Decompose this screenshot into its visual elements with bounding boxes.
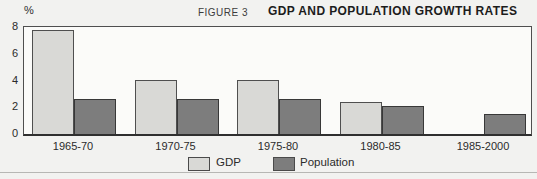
y-tick-label-4: 4: [0, 74, 18, 86]
bar-gdp-1970-75: [135, 80, 177, 134]
figure-number-label: FIGURE 3: [198, 7, 248, 18]
bar-population-1970-75: [177, 99, 219, 134]
bar-gdp-1965-70: [32, 30, 74, 134]
x-label-1970-75: 1970-75: [131, 140, 221, 152]
chart-title: GDP AND POPULATION GROWTH RATES: [268, 4, 517, 18]
bar-population-1980-85: [382, 106, 424, 134]
plot-area: [23, 26, 532, 136]
population-swatch-icon: [273, 157, 295, 171]
bar-population-1965-70: [74, 99, 116, 134]
figure-canvas: % FIGURE 3 GDP AND POPULATION GROWTH RAT…: [0, 0, 537, 179]
y-axis-unit-label: %: [24, 4, 34, 16]
y-tick-label-8: 8: [0, 20, 18, 32]
bar-gdp-1975-80: [237, 80, 279, 134]
bottom-divider-line: [0, 172, 537, 173]
bar-population-1985-2000: [484, 114, 526, 134]
legend-swatch-gdp: [188, 154, 210, 172]
x-label-1975-80: 1975-80: [233, 140, 323, 152]
legend-swatch-population: [273, 154, 295, 172]
x-label-1965-70: 1965-70: [28, 140, 118, 152]
y-tick-label-0: 0: [0, 127, 18, 139]
legend-label-gdp: GDP: [216, 154, 241, 170]
y-tick-label-6: 6: [0, 47, 18, 59]
x-label-1980-85: 1980-85: [336, 140, 426, 152]
gdp-swatch-icon: [188, 157, 210, 171]
bar-population-1975-80: [279, 99, 321, 134]
x-label-1985-2000: 1985-2000: [438, 140, 528, 152]
legend-label-population: Population: [300, 154, 354, 170]
bar-gdp-1980-85: [340, 102, 382, 134]
y-tick-label-2: 2: [0, 100, 18, 112]
y-axis-tick-labels: 02468: [0, 26, 18, 134]
